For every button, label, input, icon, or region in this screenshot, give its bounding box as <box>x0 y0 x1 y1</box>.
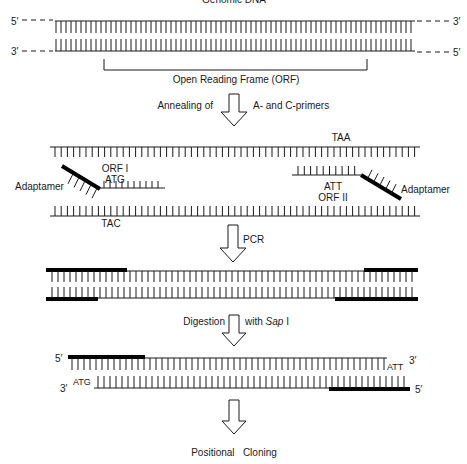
step-digestion: Digestion with Sap I <box>183 315 289 346</box>
pcr-product <box>46 270 418 299</box>
pcr-label: PCR <box>243 234 264 245</box>
digested-bottom-ticks <box>98 376 404 388</box>
right-primer-ticks <box>298 166 355 175</box>
positional-cloning-diagram: Genomic DNA 5′ 3′ 3′ 5′ Open Reading Fra… <box>0 0 467 464</box>
down-arrow-icon <box>222 400 246 434</box>
pcr-top-ticks <box>52 271 412 282</box>
diagram-title: Genomic DNA <box>202 0 266 5</box>
left-orf-codon: ATG <box>105 174 125 185</box>
left-adaptamer-bar <box>62 166 100 189</box>
left-adaptamer-label: Adaptamer <box>15 181 65 192</box>
right-adaptamer-label: Adaptamer <box>401 184 451 195</box>
digestion-with: with <box>244 316 263 327</box>
digested-bottom-codon: ATG <box>73 377 91 387</box>
digestion-left-label: Digestion <box>183 316 225 327</box>
genomic-bottom-ticks <box>56 39 411 51</box>
annealing-top-ticks <box>55 147 415 157</box>
digested-top-5prime: 5′ <box>55 353 63 364</box>
right-orf-codon: ATT <box>324 181 342 192</box>
digested-top-3prime: 3′ <box>409 355 417 366</box>
digested-bottom-5prime: 5′ <box>415 384 423 395</box>
annealing-top-codon: TAA <box>332 132 351 143</box>
left-orf-label: ORF I <box>102 163 129 174</box>
digested-top-codon: ATT <box>387 362 404 372</box>
genomic-dna: 5′ 3′ 3′ 5′ Open Reading Frame (ORF) <box>11 16 461 85</box>
pcr-bottom-ticks <box>52 287 412 298</box>
genomic-top-3prime-label: 3′ <box>453 16 461 27</box>
digestion-enzyme: Sap <box>266 316 284 327</box>
step-annealing: Annealing of A- and C-primers <box>157 94 329 126</box>
genomic-bottom-3prime-label: 3′ <box>11 46 19 57</box>
annealing-right-label: A- and C-primers <box>253 100 329 111</box>
right-orf-label: ORF II <box>318 192 347 203</box>
digested-product: 5′ ATT 3′ 3′ ATG 5′ <box>55 353 423 395</box>
digestion-enzyme-suffix: I <box>283 316 289 327</box>
digestion-right-label: with Sap I <box>244 316 289 327</box>
annealing-left-label: Annealing of <box>157 100 213 111</box>
down-arrow-icon <box>221 94 247 126</box>
step-pcr: PCR <box>220 225 264 262</box>
annealing-diagram: TAA Adaptamer ORF I ATG Adaptamer ATT OR… <box>15 132 451 229</box>
annealing-bottom-ticks <box>55 206 415 216</box>
orf-bracket <box>104 59 367 70</box>
genomic-top-ticks <box>56 21 411 33</box>
orf-label: Open Reading Frame (ORF) <box>173 74 300 85</box>
genomic-top-5prime-label: 5′ <box>11 16 19 27</box>
digested-top-ticks <box>72 358 384 370</box>
digested-bottom-3prime: 3′ <box>60 383 68 394</box>
down-arrow-icon <box>222 315 246 346</box>
step-cloning: Positional Cloning <box>191 400 277 458</box>
annealing-bottom-codon: TAC <box>101 218 120 229</box>
positional-cloning-label: Positional Cloning <box>191 447 277 458</box>
genomic-bottom-5prime-label: 5′ <box>453 47 461 58</box>
